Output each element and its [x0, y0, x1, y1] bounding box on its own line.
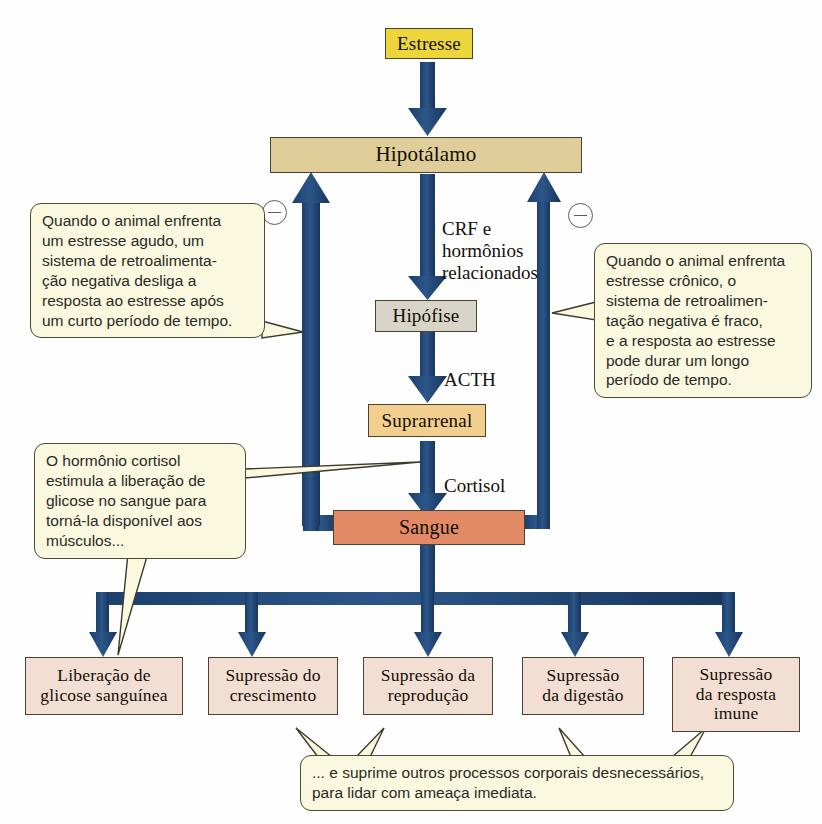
callout-suprime-line-1: ... e suprime outros processos corporais… [312, 763, 723, 783]
diagram-canvas: Estresse Hipotálamo Hipófise Suprarrenal… [0, 0, 822, 824]
outcome-box-digestao[interactable]: Supressão da digestão [522, 657, 644, 715]
node-estresse[interactable]: Estresse [385, 28, 473, 59]
callout-agudo-line-6: um curto período de tempo. [42, 311, 254, 331]
edge-label-crf: CRF e hormônios relacionados [442, 196, 538, 283]
outcome-box-crescimento[interactable]: Supressão do crescimento [208, 657, 338, 715]
outcome-box-imune[interactable]: Supressão da resposta imune [672, 657, 800, 732]
callout-cronico-line-4: tação negativa é fraco, [606, 311, 801, 331]
outcome-digestao-label: Supressão da digestão [538, 666, 627, 705]
callout-cronico-line-7: período de tempo. [606, 370, 801, 390]
edge-label-acth: ACTH [444, 347, 496, 391]
callout-cortisol-nota: O hormônio cortisol estimula a liberação… [34, 443, 246, 559]
callout-agudo-line-3: sistema de retroalimenta- [42, 251, 254, 271]
callout-cronico-line-6: pode durar um longo [606, 351, 801, 371]
node-sangue-label: Sangue [395, 516, 463, 538]
callout-cortisol-line-1: O hormônio cortisol [46, 451, 235, 471]
edge-label-cortisol-text: Cortisol [444, 475, 505, 496]
node-hipotalamo-label: Hipotálamo [371, 143, 480, 167]
arrow-hipofise-to-suprarrenal [408, 332, 447, 403]
arrow-feedback-left [292, 172, 341, 531]
node-sangue[interactable]: Sangue [333, 510, 525, 545]
minus-sign-left-icon [262, 200, 287, 225]
arrow-sangue-to-bus [420, 545, 435, 597]
leader-bottom-1 [296, 728, 332, 757]
callout-agudo-line-2: um estresse agudo, um [42, 231, 254, 251]
leader-cronico [552, 302, 596, 320]
callout-cronico-line-3: sistema de retroalimen- [606, 291, 801, 311]
leader-bottom-3 [559, 728, 585, 757]
callout-estresse-agudo: Quando o animal enfrenta um estresse agu… [30, 203, 265, 338]
outcome-box-glicose[interactable]: Liberação de glicose sanguínea [25, 657, 183, 715]
callout-cortisol-line-3: glicose no sangue para [46, 491, 235, 511]
edge-label-acth-text: ACTH [444, 369, 496, 390]
leader-bottom-2 [356, 728, 384, 757]
callout-agudo-line-1: Quando o animal enfrenta [42, 211, 254, 231]
outcome-imune-label: Supressão da resposta imune [692, 665, 780, 724]
minus-sign-right-icon [568, 203, 593, 228]
distribution-bus [96, 592, 735, 605]
node-hipotalamo[interactable]: Hipotálamo [270, 137, 582, 173]
callout-cortisol-line-4: torná-la disponível aos [46, 511, 235, 531]
node-suprarrenal[interactable]: Suprarrenal [368, 404, 486, 437]
callout-agudo-line-4: ção negativa desliga a [42, 271, 254, 291]
node-hipofise[interactable]: Hipófise [375, 300, 477, 332]
outcome-glicose-label: Liberação de glicose sanguínea [36, 666, 171, 705]
callout-cronico-line-2: estresse crônico, o [606, 271, 801, 291]
callout-cortisol-line-2: estimula a liberação de [46, 471, 235, 491]
leader-cortisol [245, 462, 420, 478]
arrow-suprarrenal-to-sangue [408, 441, 447, 519]
leader-bottom-4 [672, 728, 706, 757]
node-estresse-label: Estresse [393, 33, 465, 54]
outcome-box-reproducao[interactable]: Supressão da reprodução [363, 657, 493, 715]
outcome-reproducao-label: Supressão da reprodução [377, 666, 479, 705]
edge-label-crf-text: CRF e hormônios relacionados [442, 218, 538, 283]
leader-agudo [262, 321, 303, 338]
callout-suprime-nota: ... e suprime outros processos corporais… [300, 755, 734, 811]
callout-estresse-cronico: Quando o animal enfrenta estresse crônic… [594, 243, 812, 398]
callout-suprime-line-2: para lidar com ameaça imediata. [312, 783, 723, 803]
callout-cronico-line-1: Quando o animal enfrenta [606, 251, 801, 271]
node-suprarrenal-label: Suprarrenal [378, 410, 477, 431]
edge-label-cortisol: Cortisol [444, 453, 505, 497]
callout-cronico-line-5: e a resposta ao estresse [606, 331, 801, 351]
callout-agudo-line-5: resposta ao estresse após [42, 291, 254, 311]
outcome-crescimento-label: Supressão do crescimento [221, 666, 324, 705]
node-hipofise-label: Hipófise [388, 305, 463, 326]
callout-cortisol-line-5: músculos... [46, 531, 235, 551]
arrow-estresse-to-hipotalamo [408, 62, 447, 136]
